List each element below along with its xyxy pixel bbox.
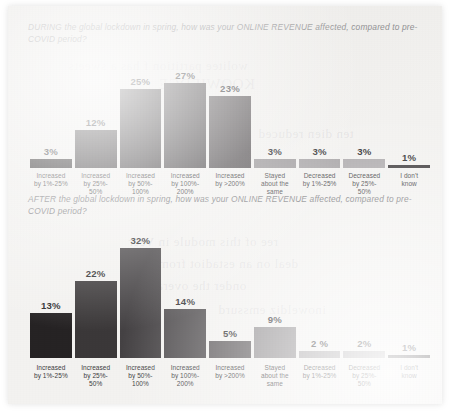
bar-value-label: 3% <box>299 147 341 157</box>
chart-title-after: AFTER the global lockdown in spring, how… <box>28 194 428 217</box>
bar-value-label: 5% <box>209 329 251 339</box>
bar-column: 12% <box>75 58 117 168</box>
bar-plot-during: 3% 12% 25% 27% 23% 3% <box>30 58 430 168</box>
bar-column: 25% <box>120 58 162 168</box>
bar-column: 23% <box>209 58 251 168</box>
bar-value-label: 1% <box>388 343 430 353</box>
label-line: by 1%-25% <box>303 372 337 379</box>
bar-value-label: 25% <box>120 77 162 87</box>
bar-rect <box>30 159 72 168</box>
bar-column: 27% <box>164 58 206 168</box>
x-axis-label: Stayed about the same <box>254 364 296 389</box>
label-line: Increased <box>216 364 245 371</box>
label-line: 50% <box>89 380 102 387</box>
label-line: by 100%- <box>171 180 199 187</box>
label-line: Increased <box>126 172 155 179</box>
bar-column: 3% <box>343 58 385 168</box>
bar-value-label: 14% <box>164 297 206 307</box>
label-line: Increased <box>81 172 110 179</box>
x-axis-label: Decreased by 25%- 50% <box>343 364 385 389</box>
label-line: Increased <box>171 172 200 179</box>
label-line: by 25%- <box>352 180 376 187</box>
x-axis-label: Increased by 1%-25% <box>30 172 72 197</box>
label-line: by 1%-25% <box>34 180 68 187</box>
bar-column: 32% <box>120 236 162 358</box>
label-line: by 50%- <box>128 180 152 187</box>
bar-column: 13% <box>30 236 72 358</box>
bar-value-label: 2 % <box>299 339 341 349</box>
x-axis-labels-during: Increased by 1%-25% Increased by 25%- 50… <box>30 172 430 197</box>
bar-rect <box>120 248 162 358</box>
x-axis-label: Increased by >200% <box>209 364 251 389</box>
bar-value-label: 3% <box>343 147 385 157</box>
bar-column: 22% <box>75 236 117 358</box>
bar-rect <box>30 313 72 358</box>
x-axis-label: Increased by 50%- 100% <box>120 172 162 197</box>
bar-value-label: 2% <box>343 339 385 349</box>
x-axis-label: Increased by 25%- 50% <box>75 364 117 389</box>
bar-value-label: 22% <box>75 269 117 279</box>
bar-rect <box>209 341 251 358</box>
x-axis-label: Increased by 50%- 100% <box>120 364 162 389</box>
bar-value-label: 13% <box>30 301 72 311</box>
chart-during: DURING the global lockdown in spring, ho… <box>8 22 442 202</box>
x-axis-labels-after: Increased by 1%-25% Increased by 25%- 50… <box>30 364 430 389</box>
bar-column: 14% <box>164 236 206 358</box>
chart-title-during: DURING the global lockdown in spring, ho… <box>28 22 428 45</box>
x-axis-label: Increased by 1%-25% <box>30 364 72 389</box>
bar-rect <box>343 351 385 358</box>
x-axis-label: I don't know <box>388 172 430 197</box>
label-line: Decreased <box>348 364 380 371</box>
label-line: Increased <box>81 364 110 371</box>
label-line: about the <box>261 180 289 187</box>
label-line: by >200% <box>215 372 245 379</box>
bar-rect <box>299 351 341 358</box>
bar-rect <box>164 83 206 168</box>
bar-value-label: 12% <box>75 118 117 128</box>
chart-after: AFTER the global lockdown in spring, how… <box>8 194 442 394</box>
bar-value-label: 3% <box>254 147 296 157</box>
bar-rect <box>209 96 251 168</box>
x-axis-label: I don't know <box>388 364 430 389</box>
label-line: by >200% <box>215 180 245 187</box>
label-line: by 100%- <box>171 372 199 379</box>
label-line: Decreased <box>304 364 336 371</box>
x-axis-label: Increased by >200% <box>209 172 251 197</box>
label-line: Increased <box>126 364 155 371</box>
bar-column: 9% <box>254 236 296 358</box>
label-line: 50% <box>358 380 371 387</box>
bar-column: 3% <box>299 58 341 168</box>
bar-rect <box>164 309 206 358</box>
x-axis-label: Increased by 100%- 200% <box>164 172 206 197</box>
bar-rect <box>388 355 430 358</box>
label-line: I don't <box>400 364 418 371</box>
bar-value-label: 9% <box>254 315 296 325</box>
bar-rect <box>120 89 162 168</box>
label-line: Increased <box>36 172 65 179</box>
x-axis-label: Decreased by 1%-25% <box>299 364 341 389</box>
label-line: Decreased <box>348 172 380 179</box>
x-axis-label: Increased by 100%- 200% <box>164 364 206 389</box>
label-line: Stayed <box>265 172 286 179</box>
bar-value-label: 23% <box>209 84 251 94</box>
bar-rect <box>299 159 341 168</box>
label-line: Stayed <box>265 364 286 371</box>
bar-column: 3% <box>254 58 296 168</box>
label-line: same <box>267 380 283 387</box>
label-line: Decreased <box>304 172 336 179</box>
x-axis-label: Increased by 25%- 50% <box>75 172 117 197</box>
bar-value-label: 1% <box>388 153 430 163</box>
x-axis-label: Decreased by 25%- 50% <box>343 172 385 197</box>
label-line: Increased <box>216 172 245 179</box>
bar-column: 1% <box>388 58 430 168</box>
bar-rect <box>254 327 296 358</box>
label-line: know <box>401 180 416 187</box>
label-line: by 25%- <box>84 180 108 187</box>
x-axis-label: Stayed about the same <box>254 172 296 197</box>
x-axis-label: Decreased by 1%-25% <box>299 172 341 197</box>
label-line: by 50%- <box>128 372 152 379</box>
bar-rect <box>343 159 385 168</box>
label-line: Increased <box>171 364 200 371</box>
label-line: know <box>401 372 416 379</box>
bar-column: 5% <box>209 236 251 358</box>
